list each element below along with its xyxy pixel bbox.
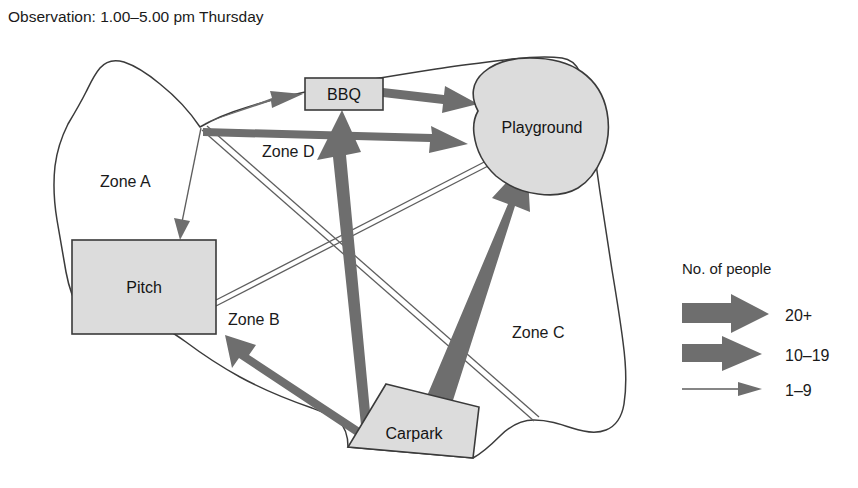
place-label-playground: Playground	[502, 119, 583, 136]
legend-label-heavy: 20+	[785, 307, 812, 324]
place-playground[interactable]: Playground	[473, 58, 608, 195]
flow-carpark-to-bbq	[317, 110, 384, 446]
figure-title: Observation: 1.00–5.00 pm Thursday	[8, 8, 264, 25]
zone-label-c: Zone C	[512, 324, 564, 341]
place-label-bbq: BBQ	[327, 86, 361, 103]
legend-label-medium: 10–19	[785, 347, 830, 364]
flow-bbq-to-playground	[383, 86, 478, 113]
zone-label-b: Zone B	[228, 311, 280, 328]
place-label-pitch: Pitch	[126, 279, 162, 296]
legend-item-thin: 1–9	[682, 382, 812, 399]
zone-label-d: Zone D	[262, 143, 314, 160]
place-pitch[interactable]: Pitch	[72, 240, 216, 334]
flow-entrance-to-pitch	[174, 128, 201, 240]
place-bbq[interactable]: BBQ	[305, 78, 383, 110]
zone-label-a: Zone A	[100, 173, 151, 190]
map-svg: Observation: 1.00–5.00 pm Thursday	[0, 0, 858, 488]
legend-title: No. of people	[682, 260, 771, 277]
flow-carpark-to-pitch	[225, 335, 366, 437]
legend: No. of people 20+ 10–19 1–9	[682, 260, 830, 399]
legend-label-thin: 1–9	[785, 382, 812, 399]
legend-item-heavy: 20+	[682, 294, 812, 333]
observation-map-figure: Observation: 1.00–5.00 pm Thursday	[0, 0, 858, 488]
place-label-carpark: Carpark	[386, 425, 444, 442]
legend-item-medium: 10–19	[682, 336, 830, 371]
